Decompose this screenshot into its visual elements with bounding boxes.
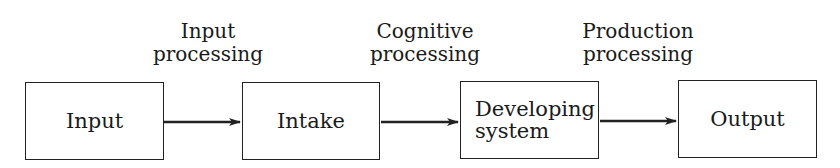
node-developing-label-line2: system [475,120,595,142]
edge-label-line1: Input [138,20,278,43]
node-intake: Intake [242,82,380,160]
node-developing-label-line1: Developing [475,98,595,120]
node-input-label: Input [66,109,123,133]
node-developing-system: Developing system [460,81,599,159]
node-input: Input [25,82,164,160]
edge-label-line2: processing [138,43,278,66]
node-output-label: Output [710,107,785,131]
node-intake-label: Intake [277,109,345,133]
node-output: Output [678,80,817,158]
edge-label-line2: processing [355,43,495,66]
edge-label-production-processing: Production processing [568,20,708,66]
edge-label-line1: Production [568,20,708,43]
edge-label-cognitive-processing: Cognitive processing [355,20,495,66]
edge-label-input-processing: Input processing [138,20,278,66]
edge-label-line2: processing [568,43,708,66]
edge-label-line1: Cognitive [355,20,495,43]
